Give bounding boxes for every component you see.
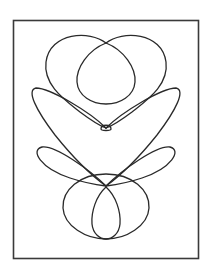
frame-border [14,21,199,259]
curve-figure [0,0,214,274]
top-loops [46,35,167,128]
bottom-loops [63,174,149,239]
lower-leaves [37,147,175,186]
